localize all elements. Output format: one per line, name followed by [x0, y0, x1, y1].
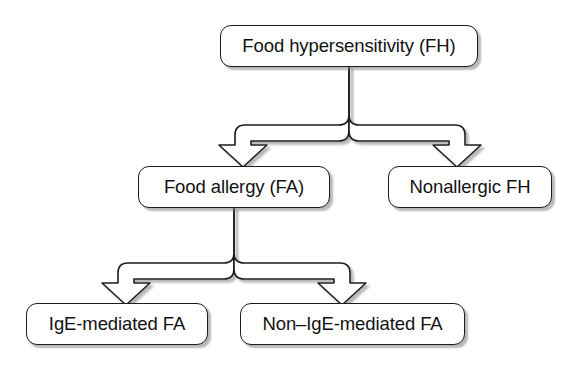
node-food-allergy: Food allergy (FA): [138, 166, 330, 208]
edge-root-to-food-allergy: [219, 66, 349, 167]
node-label-food-allergy: Food allergy (FA): [164, 178, 304, 197]
node-label-nonallergic-fh: Nonallergic FH: [410, 178, 531, 197]
node-label-ige-mediated-fa: IgE-mediated FA: [49, 315, 185, 334]
node-label-food-hypersensitivity: Food hypersensitivity (FH): [242, 37, 455, 56]
node-label-non-ige-mediated-fa: Non–IgE-mediated FA: [262, 315, 442, 334]
node-non-ige-mediated-fa: Non–IgE-mediated FA: [240, 303, 465, 345]
node-ige-mediated-fa: IgE-mediated FA: [26, 303, 208, 345]
node-nonallergic-fh: Nonallergic FH: [388, 166, 552, 208]
edge-food-allergy-to-non-ige-mediated: [234, 207, 366, 305]
flowchart-diagram: Food hypersensitivity (FH) Food allergy …: [0, 0, 582, 375]
edge-root-to-nonallergic-fh: [349, 66, 481, 167]
node-food-hypersensitivity: Food hypersensitivity (FH): [220, 25, 478, 67]
edge-food-allergy-to-ige-mediated: [102, 207, 234, 305]
